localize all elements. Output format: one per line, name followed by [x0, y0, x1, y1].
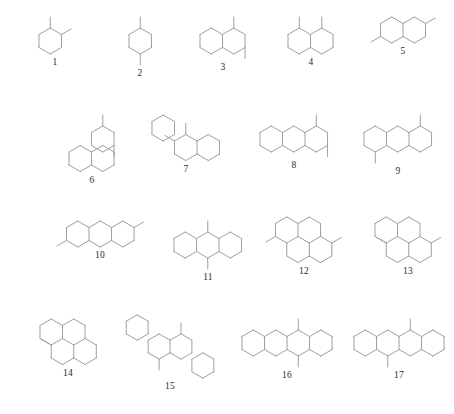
structure-number-label: 15: [165, 382, 175, 392]
structure-number-label: 6: [90, 176, 95, 186]
structure-15: 15: [118, 312, 222, 392]
structure-3: 3: [180, 14, 266, 72]
structure-5: 5: [358, 14, 448, 57]
structure-number-label: 8: [292, 161, 297, 171]
structure-number-label: 11: [203, 273, 213, 283]
structure-drawing-6: [66, 112, 117, 175]
structure-number-label: 14: [63, 369, 73, 379]
structure-drawing-1: [36, 14, 74, 57]
structure-drawing-10: [54, 218, 147, 250]
structure-drawing-2: [126, 14, 155, 68]
structure-number-label: 17: [394, 371, 404, 381]
structure-drawing-13: [372, 214, 444, 266]
structure-7: 7: [140, 112, 232, 174]
structure-1: 1: [18, 14, 92, 68]
structure-drawing-5: [368, 14, 438, 46]
structure-plate: 1234567891011121314151617: [0, 0, 454, 414]
structure-drawing-11: [171, 218, 245, 272]
structure-number-label: 10: [95, 251, 105, 261]
structure-number-label: 2: [138, 69, 143, 79]
structure-number-label: 13: [403, 267, 413, 277]
structure-4: 4: [268, 14, 354, 68]
structure-drawing-12: [263, 214, 344, 266]
structure-number-label: 3: [221, 63, 226, 73]
structure-6: 6: [46, 112, 138, 185]
structure-8: 8: [244, 112, 344, 170]
structure-drawing-7: [149, 112, 223, 164]
structure-number-label: 12: [299, 267, 309, 277]
structure-2: 2: [103, 14, 177, 79]
structure-drawing-15: [122, 312, 218, 381]
structure-number-label: 9: [396, 167, 401, 177]
structure-number-label: 16: [282, 371, 292, 381]
structure-number-label: 1: [53, 58, 58, 68]
structure-number-label: 5: [401, 47, 406, 57]
structure-12: 12: [256, 214, 352, 276]
structure-drawing-9: [361, 112, 435, 166]
structure-16: 16: [232, 316, 342, 381]
structure-10: 10: [48, 218, 152, 261]
structure-14: 14: [20, 316, 116, 378]
structure-13: 13: [360, 214, 454, 276]
structure-drawing-16: [239, 316, 335, 370]
structure-drawing-4: [285, 14, 336, 57]
structure-number-label: 7: [184, 165, 189, 175]
structure-drawing-17: [351, 316, 447, 370]
structure-drawing-14: [37, 316, 99, 368]
structure-drawing-8: [257, 112, 331, 160]
structure-17: 17: [344, 316, 454, 381]
structure-11: 11: [158, 218, 258, 283]
structure-9: 9: [348, 112, 448, 177]
structure-number-label: 4: [309, 58, 314, 68]
structure-drawing-3: [197, 14, 248, 62]
